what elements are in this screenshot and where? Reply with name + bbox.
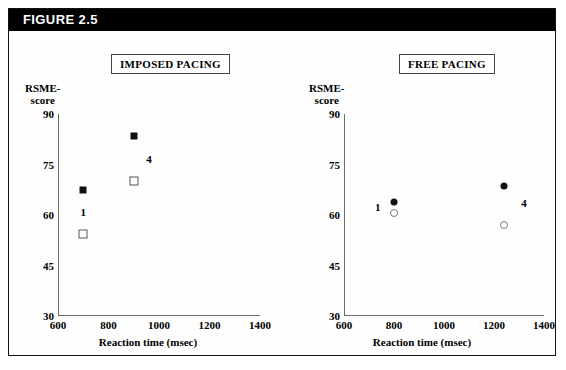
data-point-filled-circle	[391, 198, 398, 205]
plot-area-left: 304560759060080010001200140014	[58, 114, 260, 316]
y-axis-title-left: RSME- score	[25, 82, 60, 106]
data-point-label: 4	[146, 153, 152, 165]
y-axis-tick-left: 45	[43, 260, 54, 272]
figure-banner: FIGURE 2.5	[9, 9, 555, 31]
data-point-filled-circle	[501, 183, 508, 190]
y-axis-tick-right: 90	[329, 108, 340, 120]
x-axis-tick-right: 1000	[433, 319, 455, 331]
y-axis-tick-right: 75	[329, 159, 340, 171]
x-axis-tick-right: 1400	[533, 319, 555, 331]
y-axis-tick-left: 75	[43, 159, 54, 171]
data-point-open-circle	[500, 221, 508, 229]
data-point-label: 1	[81, 206, 87, 218]
panel-title-imposed-pacing: IMPOSED PACING	[111, 54, 230, 74]
y-axis-line-right	[344, 114, 345, 316]
x-axis-tick-left: 800	[100, 319, 117, 331]
x-axis-tick-left: 1400	[249, 319, 271, 331]
panel-free-pacing: FREE PACING RSME- score 3045607590600800…	[287, 31, 557, 357]
x-axis-tick-left: 600	[50, 319, 67, 331]
data-point-open-circle	[390, 209, 398, 217]
x-axis-line-right	[344, 315, 544, 316]
y-axis-tick-left: 60	[43, 209, 54, 221]
x-axis-tick-right: 600	[336, 319, 353, 331]
figure-frame: FIGURE 2.5 IMPOSED PACING RSME- score 30…	[8, 8, 556, 356]
data-point-filled-square	[130, 132, 137, 139]
x-axis-title-right: Reaction time (msec)	[287, 336, 557, 348]
data-point-filled-square	[80, 186, 87, 193]
figure-number-label: FIGURE 2.5	[23, 12, 98, 27]
data-point-label: 4	[521, 197, 527, 209]
x-axis-tick-left: 1200	[199, 319, 221, 331]
data-point-label: 1	[375, 201, 381, 213]
y-axis-title-line1: RSME-	[25, 82, 60, 94]
data-point-open-square	[129, 177, 138, 186]
x-axis-title-left: Reaction time (msec)	[9, 336, 287, 348]
panel-imposed-pacing: IMPOSED PACING RSME- score 3045607590600…	[9, 31, 287, 357]
y-axis-title-line2: score	[25, 94, 60, 106]
x-axis-tick-right: 1200	[483, 319, 505, 331]
y-axis-tick-left: 90	[43, 108, 54, 120]
y-axis-tick-right: 45	[329, 260, 340, 272]
y-axis-tick-right: 60	[329, 209, 340, 221]
y-axis-title-line1: RSME-	[309, 82, 344, 94]
plot-area-right: 304560759060080010001200140014	[344, 114, 544, 316]
y-axis-title-line2: score	[309, 94, 344, 106]
data-point-open-square	[79, 229, 88, 238]
x-axis-tick-left: 1000	[148, 319, 170, 331]
y-axis-title-right: RSME- score	[309, 82, 344, 106]
x-axis-line-left	[58, 315, 260, 316]
y-axis-line-left	[58, 114, 59, 316]
panel-title-free-pacing: FREE PACING	[399, 54, 495, 74]
x-axis-tick-right: 800	[386, 319, 403, 331]
